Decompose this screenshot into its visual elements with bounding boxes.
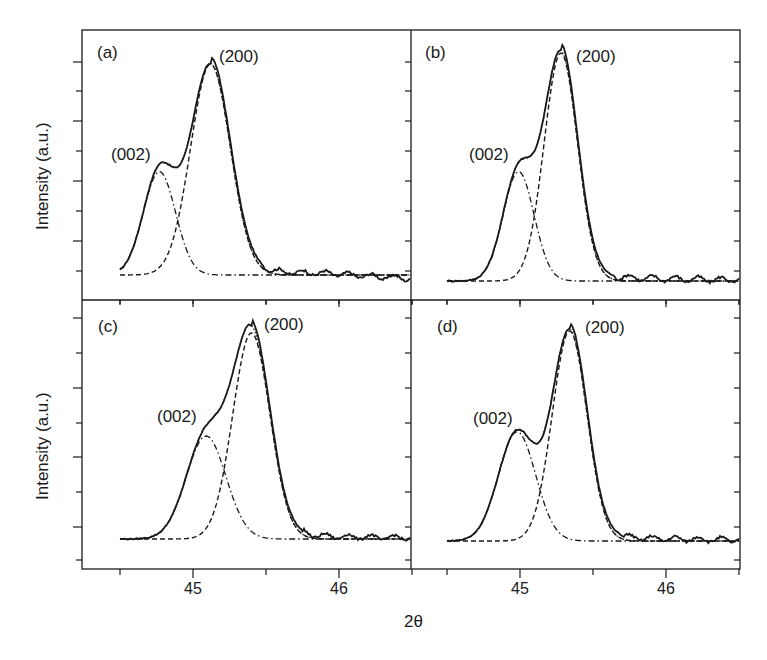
fit-200-curve [120,64,411,275]
axis-ticks [73,62,740,578]
fit-002-curve [120,436,411,539]
panel-a-curves [120,58,411,282]
fit-200-curve [120,333,411,539]
y-axis-label-bottom: Intensity (a.u.) [33,392,53,500]
panel-tag-c: (c) [98,317,118,337]
x-tick-label-45-right: 45 [511,580,529,598]
fit-sum-curve [120,63,411,275]
fit-002-curve [447,172,739,281]
x-tick-label-46-left: 46 [330,580,348,598]
peak-label-c-200: (200) [264,315,304,335]
measured-curve [447,324,739,543]
y-axis-label-top: Intensity (a.u.) [33,122,53,230]
measured-curve [120,58,411,282]
x-tick-label-46-right: 46 [657,580,675,598]
peak-label-c-002: (002) [157,407,197,427]
panel-tag-a: (a) [97,43,118,63]
fit-sum-curve [120,325,411,539]
fit-sum-curve [447,329,739,541]
curves [120,45,739,543]
fit-002-curve [120,172,411,275]
fit-200-curve [447,331,739,541]
panel-d-curves [447,324,739,543]
fit-sum-curve [447,50,739,281]
peak-label-d-002: (002) [473,409,513,429]
x-axis-label: 2θ [404,612,423,632]
peak-label-d-200: (200) [585,318,625,338]
panel-tag-d: (d) [437,317,458,337]
peak-label-b-200: (200) [576,47,616,67]
peak-label-a-002: (002) [111,145,151,165]
x-tick-label-45-left: 45 [184,580,202,598]
axes-frames [82,30,740,569]
panel-c-curves [120,321,411,541]
panel-tag-b: (b) [425,43,446,63]
peak-label-a-200: (200) [219,47,259,67]
measured-curve [120,321,411,541]
peak-label-b-002: (002) [469,145,509,165]
